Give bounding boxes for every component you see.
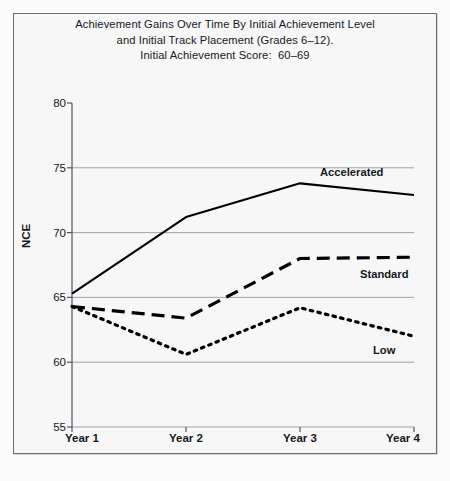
- y-axis-label-60: 60: [34, 356, 66, 368]
- y-axis-title: NCE: [20, 224, 32, 248]
- x-axis-label-year-2: Year 2: [169, 432, 203, 444]
- series-label-accelerated: Accelerated: [320, 166, 383, 178]
- chart-title-line-3: Initial Achievement Score: 60–69: [0, 48, 450, 64]
- series-label-standard: Standard: [360, 268, 409, 280]
- chart-page: Achievement Gains Over Time By Initial A…: [0, 0, 450, 481]
- y-axis-label-75: 75: [34, 162, 66, 174]
- y-axis-label-70: 70: [34, 227, 66, 239]
- x-axis-label-year-4: Year 4: [386, 432, 420, 444]
- y-axis-label-65: 65: [34, 291, 66, 303]
- y-axis-label-80: 80: [34, 97, 66, 109]
- chart-title: Achievement Gains Over Time By Initial A…: [0, 17, 450, 64]
- y-axis-label-55: 55: [34, 421, 66, 433]
- chart-title-line-2: and Initial Track Placement (Grades 6–12…: [0, 33, 450, 49]
- chart-frame: [13, 13, 437, 454]
- x-axis-label-year-1: Year 1: [65, 432, 99, 444]
- x-axis-label-year-3: Year 3: [283, 432, 317, 444]
- chart-title-line-1: Achievement Gains Over Time By Initial A…: [0, 17, 450, 33]
- series-label-low: Low: [373, 344, 395, 356]
